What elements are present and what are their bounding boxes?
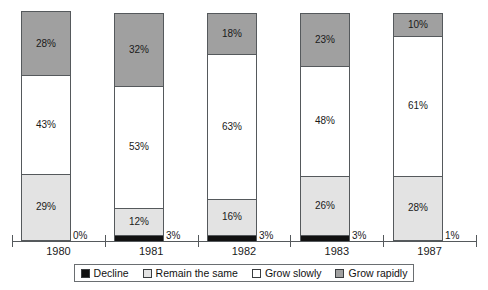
legend-label: Grow slowly (265, 268, 322, 279)
legend-label: Decline (94, 268, 129, 279)
bar-segment-value: 18% (208, 29, 256, 39)
decline-value-label: 3% (259, 231, 273, 241)
legend-item-decline[interactable]: Decline (81, 268, 129, 279)
bar-stack: 1%28%61%10% (393, 13, 443, 242)
bar-segment-grow-slowly: 63% (207, 54, 257, 198)
axis-tick-label-1980: 1980 (13, 246, 103, 257)
decline-value-label: 0% (73, 231, 87, 241)
x-axis-line (12, 241, 476, 242)
bar-segment-value: 43% (22, 120, 70, 130)
bar-group-1980: 0%29%43%28%0% (21, 1, 71, 242)
bar-segment-value: 63% (208, 122, 256, 132)
bar-segment-value: 12% (115, 217, 163, 227)
bar-segment-remain-the-same: 12% (114, 208, 164, 235)
bar-group-1983: 3%26%48%23%3% (300, 1, 350, 242)
bar-segment-grow-rapidly: 18% (207, 13, 257, 54)
bar-segment-remain-the-same: 28% (393, 176, 443, 240)
bar-segment-value: 26% (301, 201, 349, 211)
plot-area: 0%29%43%28%0%3%12%53%32%3%3%16%63%18%3%3… (0, 0, 488, 242)
stacked-bar-chart: 0%29%43%28%0%3%12%53%32%3%3%16%63%18%3%3… (0, 0, 488, 290)
decline-value-label: 3% (166, 231, 180, 241)
bar-stack: 0%29%43%28% (21, 11, 71, 242)
legend-swatch-icon (252, 269, 261, 278)
legend-swatch-icon (81, 269, 90, 278)
decline-value-label: 3% (352, 231, 366, 241)
bar-segment-grow-slowly: 53% (114, 86, 164, 207)
legend-item-grow-slowly[interactable]: Grow slowly (252, 268, 322, 279)
legend-item-grow-rapidly[interactable]: Grow rapidly (335, 268, 407, 279)
bar-segment-grow-rapidly: 10% (393, 13, 443, 36)
bar-segment-value: 53% (115, 142, 163, 152)
bar-segment-value: 23% (301, 35, 349, 45)
bar-segment-grow-rapidly: 23% (300, 13, 350, 66)
bar-segment-value: 32% (115, 45, 163, 55)
bar-segment-grow-rapidly: 32% (114, 13, 164, 86)
bar-segment-value: 29% (22, 202, 70, 212)
bar-segment-value: 16% (208, 212, 256, 222)
axis-tick-label-1982: 1982 (199, 246, 289, 257)
bar-segment-value: 61% (394, 101, 442, 111)
bar-segment-remain-the-same: 26% (300, 176, 350, 236)
bar-segment-value: 28% (394, 203, 442, 213)
legend-swatch-icon (335, 269, 344, 278)
legend-label: Remain the same (156, 268, 238, 279)
bar-segment-remain-the-same: 16% (207, 199, 257, 236)
bar-segment-grow-slowly: 48% (300, 66, 350, 176)
bar-segment-value: 48% (301, 116, 349, 126)
axis-tick (476, 235, 477, 247)
legend-label: Grow rapidly (348, 268, 407, 279)
bar-segment-value: 28% (22, 39, 70, 49)
bar-segment-grow-rapidly: 28% (21, 11, 71, 75)
decline-value-label: 1% (445, 231, 459, 241)
bar-stack: 3%12%53%32% (114, 13, 164, 242)
chart-legend: DeclineRemain the sameGrow slowlyGrow ra… (74, 264, 414, 282)
bar-group-1982: 3%16%63%18%3% (207, 1, 257, 242)
bar-segment-grow-slowly: 61% (393, 36, 443, 176)
bar-segment-remain-the-same: 29% (21, 174, 71, 240)
bar-stack: 3%26%48%23% (300, 13, 350, 242)
axis-tick-label-1987: 1987 (385, 246, 475, 257)
bar-stack: 3%16%63%18% (207, 13, 257, 242)
legend-item-remain-the-same[interactable]: Remain the same (143, 268, 238, 279)
bar-group-1981: 3%12%53%32%3% (114, 1, 164, 242)
bar-segment-value: 10% (394, 20, 442, 30)
legend-swatch-icon (143, 269, 152, 278)
axis-tick-label-1983: 1983 (292, 246, 382, 257)
bar-group-1987: 1%28%61%10%1% (393, 1, 443, 242)
axis-tick-label-1981: 1981 (106, 246, 196, 257)
bar-segment-grow-slowly: 43% (21, 75, 71, 173)
